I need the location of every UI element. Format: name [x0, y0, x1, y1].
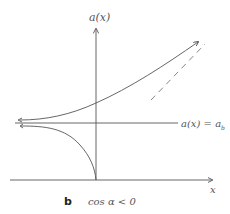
lower-curve — [21, 126, 96, 180]
upper-curve — [20, 42, 198, 120]
oblique-asymptote-dashed — [151, 44, 205, 100]
condition-label: cos α < 0 — [88, 196, 136, 207]
x-axis-label: x — [210, 184, 216, 195]
y-axis-label: a(x) — [89, 11, 110, 24]
panel-label: b — [64, 195, 72, 208]
asymptote-label: a(x) = ab — [181, 118, 225, 131]
diagram-canvas: a(x) x a(x) = ab b cos α < 0 — [0, 0, 230, 214]
